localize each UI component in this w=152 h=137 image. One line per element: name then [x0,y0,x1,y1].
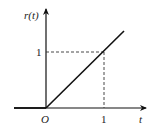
ramp-function-diagram: r(t) t O 1 1 [0,0,152,137]
y-tick-label-1: 1 [36,46,42,58]
x-axis-label: t [139,113,143,125]
x-tick-label-1: 1 [101,113,107,125]
ramp-line [46,31,124,108]
origin-label: O [41,113,49,125]
y-axis-label: r(t) [24,9,39,22]
